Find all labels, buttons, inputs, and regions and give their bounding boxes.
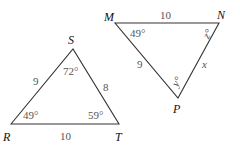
vertex-label-p: P xyxy=(172,102,181,116)
side-label-np: x xyxy=(201,58,207,70)
triangle-rst: S R T 9 8 10 72° 49° 59° xyxy=(2,33,123,144)
angle-label-n: z° xyxy=(199,26,215,41)
vertex-label-m: M xyxy=(103,10,115,24)
vertex-label-t: T xyxy=(115,130,123,144)
vertex-label-n: N xyxy=(216,8,226,22)
side-label-rs: 9 xyxy=(33,75,39,87)
angle-label-s: 72° xyxy=(63,65,78,77)
vertex-label-s: S xyxy=(68,33,74,47)
angle-label-t: 59° xyxy=(88,109,103,121)
angle-label-p: y° xyxy=(168,74,184,89)
side-label-rt: 10 xyxy=(60,130,72,142)
side-label-mp: 9 xyxy=(137,58,143,70)
vertex-label-r: R xyxy=(2,130,11,144)
similar-triangles-diagram: S R T 9 8 10 72° 49° 59° M N P 10 9 x 49… xyxy=(0,0,240,150)
angle-label-r: 49° xyxy=(23,109,38,121)
side-label-st: 8 xyxy=(103,81,109,93)
side-label-mn: 10 xyxy=(160,9,172,21)
triangle-mnp: M N P 10 9 x 49° z° y° xyxy=(103,8,226,116)
angle-label-m: 49° xyxy=(130,27,145,39)
